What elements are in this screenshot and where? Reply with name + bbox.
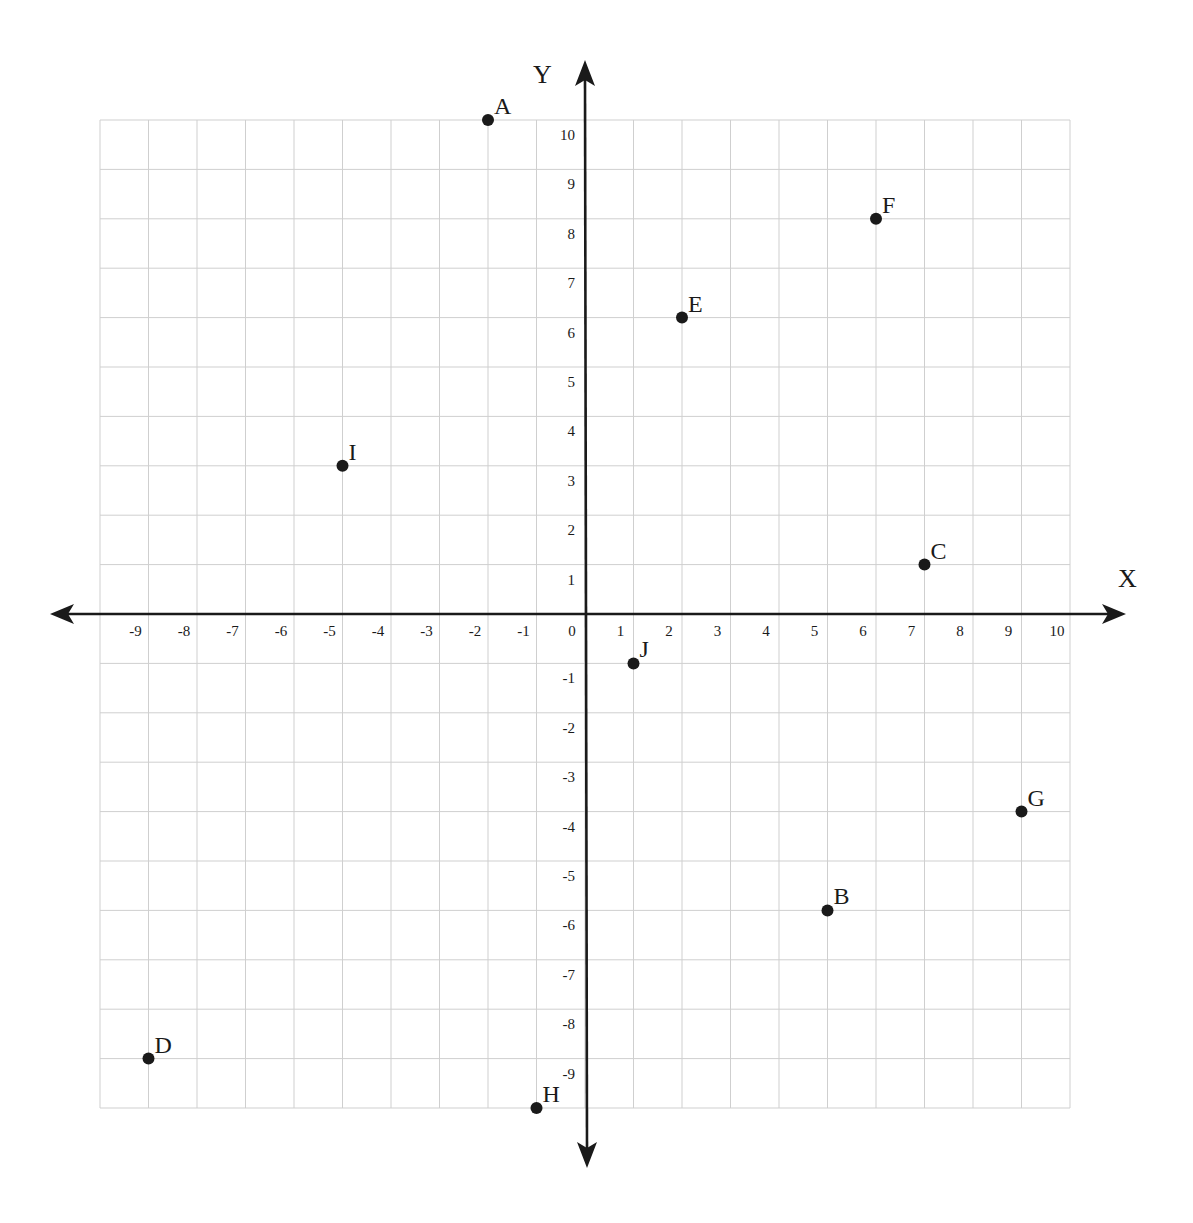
data-point-g: G xyxy=(1016,785,1045,818)
point-label: A xyxy=(494,93,512,119)
y-tick-label: -3 xyxy=(563,769,576,785)
y-tick-label: -4 xyxy=(563,819,576,835)
x-tick-label: 0 xyxy=(568,623,576,639)
data-point-c: C xyxy=(919,538,947,571)
y-tick-label: 5 xyxy=(568,374,576,390)
x-tick-label: -4 xyxy=(372,623,385,639)
point-marker-icon xyxy=(628,657,640,669)
point-marker-icon xyxy=(337,460,349,472)
data-point-j: J xyxy=(628,636,649,669)
point-marker-icon xyxy=(143,1053,155,1065)
y-tick-label: 6 xyxy=(568,325,576,341)
y-tick-label: 7 xyxy=(568,275,576,291)
y-tick-label: 1 xyxy=(568,572,576,588)
x-tick-label: 5 xyxy=(811,623,819,639)
x-tick-label: -7 xyxy=(226,623,239,639)
x-tick-label: 2 xyxy=(665,623,673,639)
point-marker-icon xyxy=(676,312,688,324)
point-marker-icon xyxy=(919,559,931,571)
coordinate-plane: X Y -9-8-7-6-5-4-3-2-1012345678910 10987… xyxy=(0,0,1193,1223)
point-label: C xyxy=(931,538,947,564)
x-tick-label: 1 xyxy=(617,623,625,639)
y-tick-label: 9 xyxy=(568,176,576,192)
y-tick-label: 10 xyxy=(560,127,575,143)
point-marker-icon xyxy=(1016,806,1028,818)
point-label: J xyxy=(640,636,649,662)
y-tick-label: 2 xyxy=(568,522,576,538)
data-point-b: B xyxy=(822,883,850,916)
data-point-d: D xyxy=(143,1032,172,1065)
point-marker-icon xyxy=(822,904,834,916)
y-tick-label: -9 xyxy=(563,1066,576,1082)
y-tick-label: -1 xyxy=(563,670,576,686)
data-point-f: F xyxy=(870,192,895,225)
x-tick-label: 8 xyxy=(956,623,964,639)
y-tick-label: 8 xyxy=(568,226,576,242)
y-tick-label: 3 xyxy=(568,473,576,489)
x-tick-label: -2 xyxy=(469,623,482,639)
point-label: E xyxy=(688,291,703,317)
y-tick-label: -6 xyxy=(563,917,576,933)
x-tick-label: 3 xyxy=(714,623,722,639)
point-marker-icon xyxy=(482,114,494,126)
y-tick-label: -5 xyxy=(563,868,576,884)
point-label: G xyxy=(1028,785,1045,811)
x-axis-title: X xyxy=(1118,564,1137,593)
data-point-i: I xyxy=(337,439,357,472)
y-tick-label: -8 xyxy=(563,1016,576,1032)
point-marker-icon xyxy=(870,213,882,225)
point-label: I xyxy=(349,439,357,465)
data-points: ABCDEFGHIJ xyxy=(143,93,1045,1114)
x-tick-label: 10 xyxy=(1050,623,1065,639)
x-tick-label: 7 xyxy=(908,623,916,639)
data-point-e: E xyxy=(676,291,703,324)
x-tick-label: -6 xyxy=(275,623,288,639)
x-tick-label: 9 xyxy=(1005,623,1013,639)
x-tick-label: -8 xyxy=(178,623,191,639)
point-marker-icon xyxy=(531,1102,543,1114)
point-label: F xyxy=(882,192,895,218)
x-tick-label: -9 xyxy=(129,623,142,639)
x-tick-label: -5 xyxy=(323,623,336,639)
x-tick-label: 4 xyxy=(762,623,770,639)
data-point-a: A xyxy=(482,93,512,126)
data-point-h: H xyxy=(531,1081,560,1114)
point-label: H xyxy=(543,1081,560,1107)
y-axis-title: Y xyxy=(533,60,552,89)
x-tick-label: -3 xyxy=(420,623,433,639)
y-tick-labels: 10987654321-1-2-3-4-5-6-7-8-9 xyxy=(560,127,576,1082)
y-tick-label: 4 xyxy=(568,423,576,439)
y-tick-label: -7 xyxy=(563,967,576,983)
point-label: D xyxy=(155,1032,172,1058)
x-tick-label: -1 xyxy=(517,623,530,639)
y-tick-label: -2 xyxy=(563,720,576,736)
point-label: B xyxy=(834,883,850,909)
x-tick-label: 6 xyxy=(859,623,867,639)
axes: X Y xyxy=(50,60,1137,1168)
